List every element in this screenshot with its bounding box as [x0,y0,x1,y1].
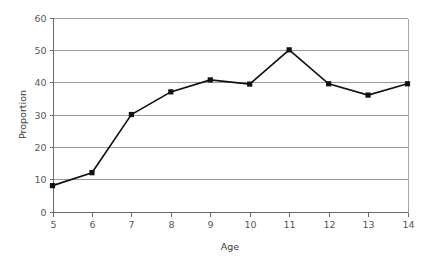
x-tick-label-12: 12 [323,219,335,230]
x-tick-label-7: 7 [128,219,134,230]
y-tick-label-50: 50 [34,45,46,56]
x-tick-label-5: 5 [50,219,56,230]
data-point-age-6 [89,170,94,175]
data-point-age-7 [129,112,134,117]
line-chart-figure: 0102030405060 567891011121314 Proportion… [0,0,426,257]
x-tick-label-11: 11 [283,219,295,230]
y-tick-label-20: 20 [34,142,46,153]
y-tick-label-10: 10 [34,174,46,185]
data-point-age-8 [168,89,173,94]
data-point-age-10 [247,82,252,87]
x-tick-label-10: 10 [244,219,256,230]
y-tick-label-60: 60 [34,13,46,24]
x-tick-label-6: 6 [89,219,95,230]
y-tick-label-40: 40 [34,77,46,88]
y-axis-title: Proportion [17,90,28,139]
data-point-age-12 [326,81,331,86]
data-point-age-11 [287,47,292,52]
data-point-age-5 [50,183,55,188]
data-point-age-14 [405,81,410,86]
x-tick-label-9: 9 [207,219,213,230]
x-tick-label-13: 13 [362,219,374,230]
x-tick-label-8: 8 [168,219,174,230]
y-tick-label-30: 30 [34,110,46,121]
x-axis-title: Age [221,241,240,252]
data-point-age-9 [208,77,213,82]
data-point-age-13 [365,93,370,98]
chart-svg: 0102030405060 567891011121314 Proportion… [0,0,426,257]
x-tick-label-14: 14 [402,219,414,230]
y-tick-label-0: 0 [40,207,46,218]
